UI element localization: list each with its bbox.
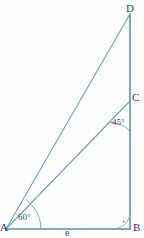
right-angle-dot-B [123,221,125,223]
side-label-e: e [65,228,69,238]
angle-arc-60-outer [31,205,41,229]
angle-label-45: 45° [112,118,125,127]
angle-arc-inner-A [26,199,31,204]
vertex-label-D: D [126,3,134,14]
vertex-label-A: A [0,222,8,233]
angle-label-60: 60° [18,213,31,222]
right-angle-arc-B [113,212,130,229]
vertex-label-B: B [133,222,140,233]
geometry-diagram: D C B A 45° 60° e [0,0,144,238]
vertex-label-C: C [132,92,139,103]
